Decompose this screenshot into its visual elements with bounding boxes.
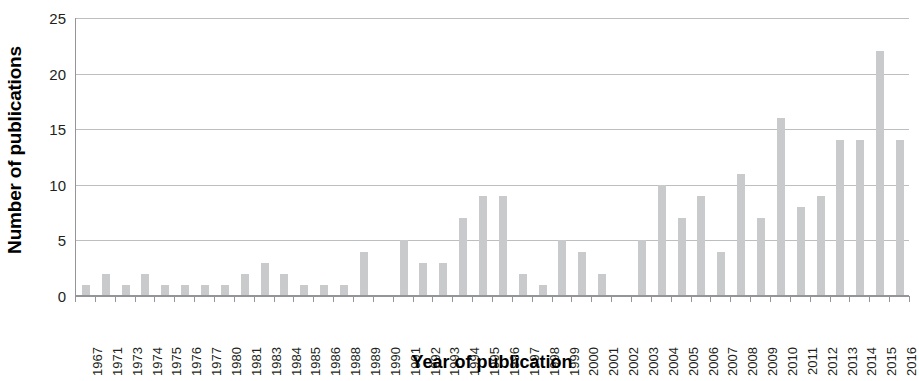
- bar[interactable]: [499, 196, 507, 296]
- x-tick: [313, 296, 314, 302]
- bar[interactable]: [856, 140, 864, 296]
- x-tick: [532, 296, 533, 302]
- bar[interactable]: [400, 240, 408, 296]
- x-tick: [611, 296, 612, 302]
- y-axis-tick-labels: 0510152025: [30, 10, 68, 302]
- bar-slot: [255, 18, 275, 296]
- x-tick: [293, 296, 294, 302]
- x-tick: [651, 296, 652, 302]
- y-tick-label: 10: [49, 176, 66, 193]
- x-tick: [373, 296, 374, 302]
- bar[interactable]: [558, 240, 566, 296]
- bar-slot: [890, 18, 910, 296]
- bar-slot: [294, 18, 314, 296]
- x-tick: [174, 296, 175, 302]
- bar-slot: [394, 18, 414, 296]
- bar[interactable]: [876, 51, 884, 296]
- bar[interactable]: [519, 274, 527, 296]
- bar-slot: [76, 18, 96, 296]
- x-tick: [75, 296, 76, 302]
- bar[interactable]: [697, 196, 705, 296]
- bar-slot: [235, 18, 255, 296]
- bar-slot: [751, 18, 771, 296]
- x-tick: [631, 296, 632, 302]
- bar[interactable]: [658, 185, 666, 296]
- bar-slot: [612, 18, 632, 296]
- bar-slot: [175, 18, 195, 296]
- bar-slot: [533, 18, 553, 296]
- x-tick: [333, 296, 334, 302]
- bar[interactable]: [817, 196, 825, 296]
- x-tick: [591, 296, 592, 302]
- plot-area: [75, 18, 909, 296]
- bar-slot: [354, 18, 374, 296]
- bar[interactable]: [638, 240, 646, 296]
- bar[interactable]: [419, 263, 427, 296]
- x-tick: [750, 296, 751, 302]
- bar[interactable]: [141, 274, 149, 296]
- bar[interactable]: [439, 263, 447, 296]
- bar[interactable]: [717, 252, 725, 296]
- x-tick: [552, 296, 553, 302]
- y-tick-label: 5: [58, 232, 66, 249]
- y-tick-label: 20: [49, 65, 66, 82]
- bar[interactable]: [598, 274, 606, 296]
- bar[interactable]: [241, 274, 249, 296]
- x-tick: [135, 296, 136, 302]
- bar[interactable]: [797, 207, 805, 296]
- bar-slot: [96, 18, 116, 296]
- y-tick-label: 15: [49, 121, 66, 138]
- bar-slot: [572, 18, 592, 296]
- bar[interactable]: [737, 174, 745, 296]
- bar[interactable]: [479, 196, 487, 296]
- x-tick: [452, 296, 453, 302]
- bar[interactable]: [459, 218, 467, 296]
- bar[interactable]: [678, 218, 686, 296]
- x-axis-tick-labels: 1967197119731974197519761977198019811983…: [75, 303, 909, 349]
- x-tick: [95, 296, 96, 302]
- bar-slot: [136, 18, 156, 296]
- x-tick: [115, 296, 116, 302]
- bar[interactable]: [360, 252, 368, 296]
- x-tick: [830, 296, 831, 302]
- bar[interactable]: [836, 140, 844, 296]
- x-tick: [790, 296, 791, 302]
- bar-slot: [374, 18, 394, 296]
- bar-slot: [275, 18, 295, 296]
- y-tick-label: 25: [49, 10, 66, 27]
- x-tick: [512, 296, 513, 302]
- bar-slot: [632, 18, 652, 296]
- x-tick: [413, 296, 414, 302]
- bar[interactable]: [280, 274, 288, 296]
- x-tick: [353, 296, 354, 302]
- x-tick: [730, 296, 731, 302]
- bar-slot: [731, 18, 751, 296]
- x-tick: [274, 296, 275, 302]
- x-tick: [770, 296, 771, 302]
- bar-slot: [811, 18, 831, 296]
- bar[interactable]: [896, 140, 904, 296]
- bar[interactable]: [102, 274, 110, 296]
- bar-slot: [453, 18, 473, 296]
- x-tick: [234, 296, 235, 302]
- bar[interactable]: [261, 263, 269, 296]
- x-axis-ticks: [75, 296, 909, 302]
- bar-slot: [692, 18, 712, 296]
- x-tick: [691, 296, 692, 302]
- bars-layer: [76, 18, 909, 296]
- x-tick: [710, 296, 711, 302]
- bar-slot: [870, 18, 890, 296]
- bar-slot: [850, 18, 870, 296]
- y-tick-label: 0: [58, 288, 66, 305]
- bar[interactable]: [578, 252, 586, 296]
- x-axis-title: Year of publication: [75, 352, 909, 373]
- x-tick: [194, 296, 195, 302]
- bar[interactable]: [757, 218, 765, 296]
- bar[interactable]: [777, 118, 785, 296]
- bar-slot: [831, 18, 851, 296]
- x-tick: [849, 296, 850, 302]
- bar-slot: [513, 18, 533, 296]
- x-tick: [393, 296, 394, 302]
- x-tick: [254, 296, 255, 302]
- x-tick: [214, 296, 215, 302]
